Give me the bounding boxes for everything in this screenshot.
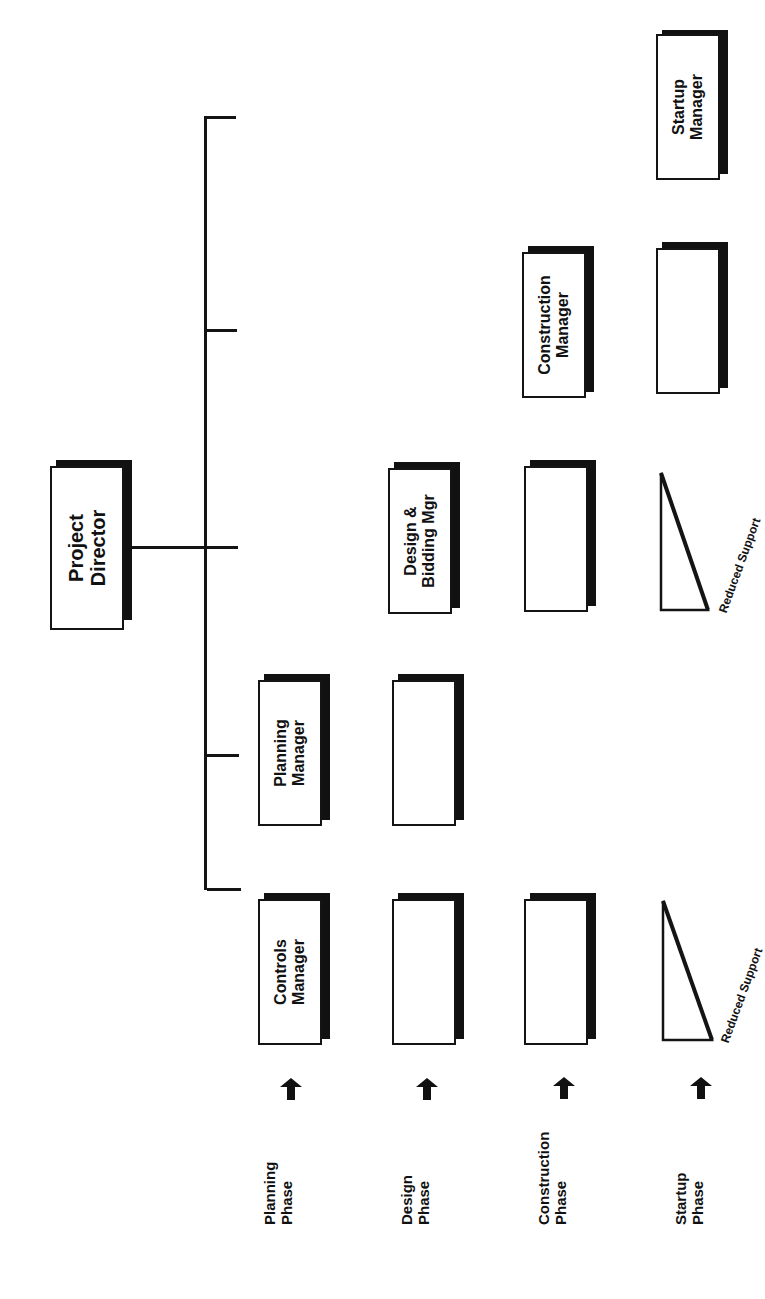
controls-construction-phase-box: [524, 893, 596, 1045]
design-phase-label: DesignPhase: [398, 1175, 433, 1225]
construction-startup-phase-box: [656, 242, 728, 394]
branch-construction: [205, 329, 237, 332]
startup-manager-box: StartupManager: [656, 30, 728, 180]
startup-manager-label: StartupManager: [670, 74, 705, 140]
branch-startup: [204, 116, 236, 119]
controls-reduced-support-triangle: [660, 898, 720, 1043]
construction-phase-label: ConstructionPhase: [535, 1132, 570, 1225]
controls-design-phase-box: [392, 893, 464, 1045]
design-construction-phase-box: [524, 460, 596, 612]
design-reduced-support-triangle: [658, 470, 718, 615]
branch-planning: [207, 754, 239, 757]
controls-manager-label: ControlsManager: [272, 939, 307, 1005]
tree-trunk: [204, 116, 207, 890]
project-director-box: ProjectDirector: [50, 460, 132, 632]
planning-design-phase-box: [392, 674, 464, 826]
startup-phase-label: StartupPhase: [672, 1173, 707, 1226]
controls-manager-box: ControlsManager: [258, 893, 330, 1045]
startup-phase-arrow-icon: [690, 1077, 712, 1099]
construction-manager-box: ConstructionManager: [522, 246, 594, 398]
design-bidding-manager-box: Design &Bidding Mgr: [388, 462, 460, 614]
controls-reduced-support-label: Reduced Support: [718, 946, 765, 1045]
design-bidding-manager-label: Design &Bidding Mgr: [402, 494, 437, 587]
branch-controls: [207, 888, 241, 891]
construction-phase-arrow-icon: [553, 1077, 575, 1099]
planning-manager-label: PlanningManager: [272, 719, 307, 787]
design-phase-arrow-icon: [416, 1078, 438, 1100]
planning-phase-arrow-icon: [280, 1078, 302, 1100]
design-reduced-support-label: Reduced Support: [716, 516, 763, 615]
planning-manager-box: PlanningManager: [258, 674, 330, 826]
construction-manager-label: ConstructionManager: [536, 275, 571, 375]
branch-design: [206, 546, 238, 549]
project-director-label: ProjectDirector: [65, 510, 109, 587]
planning-phase-label: PlanningPhase: [261, 1162, 296, 1225]
